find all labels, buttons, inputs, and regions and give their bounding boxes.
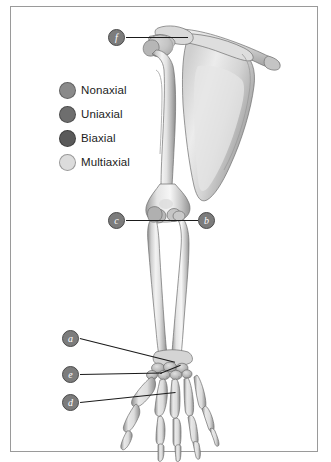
callout-label-d: d (68, 397, 73, 408)
callout-label-f: f (115, 32, 118, 43)
legend-swatch-biaxial (59, 130, 76, 147)
legend-label-biaxial: Biaxial (81, 132, 116, 144)
callout-marker-e[interactable]: e (62, 366, 79, 383)
legend-label-uniaxial: Uniaxial (81, 108, 123, 120)
callout-label-b: b (204, 215, 209, 226)
legend-item-biaxial: Biaxial (59, 126, 169, 150)
callout-marker-c[interactable]: c (108, 212, 125, 229)
legend-swatch-multiaxial (59, 154, 76, 171)
callout-marker-f[interactable]: f (108, 29, 125, 46)
figure-border (10, 6, 318, 452)
legend-item-uniaxial: Uniaxial (59, 102, 169, 126)
callout-marker-a[interactable]: a (62, 330, 79, 347)
callout-label-e: e (68, 369, 72, 380)
callout-label-c: c (114, 215, 118, 226)
leader-line-b (172, 220, 198, 221)
legend-item-nonaxial: Nonaxial (59, 78, 169, 102)
figure-root: Nonaxial Uniaxial Biaxial Multiaxial f c… (0, 0, 331, 462)
legend-item-multiaxial: Multiaxial (59, 150, 169, 174)
leader-line-f (126, 37, 188, 38)
leader-line-c (126, 220, 172, 221)
callout-marker-d[interactable]: d (62, 394, 79, 411)
legend-swatch-nonaxial (59, 82, 76, 99)
legend-label-multiaxial: Multiaxial (81, 156, 130, 168)
callout-marker-b[interactable]: b (198, 212, 215, 229)
callout-label-a: a (68, 333, 73, 344)
legend-label-nonaxial: Nonaxial (81, 84, 127, 96)
legend-swatch-uniaxial (59, 106, 76, 123)
legend: Nonaxial Uniaxial Biaxial Multiaxial (59, 78, 169, 174)
